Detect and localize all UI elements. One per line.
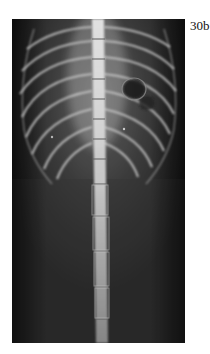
xray-image bbox=[12, 19, 185, 343]
xray-graphic bbox=[12, 19, 185, 343]
figure-label: 30b bbox=[190, 19, 210, 33]
